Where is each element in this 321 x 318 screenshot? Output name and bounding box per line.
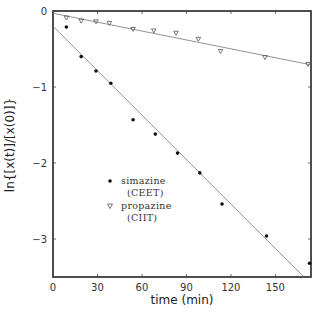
data-point-simazine — [198, 171, 202, 175]
fit-lines — [53, 13, 311, 277]
x-tick-label: 90 — [180, 282, 193, 293]
y-tick-label: −2 — [32, 158, 47, 169]
data-point-simazine — [265, 234, 269, 238]
data-point-simazine — [79, 55, 83, 59]
data-point-propazine — [64, 16, 69, 20]
x-tick-label: 30 — [91, 282, 104, 293]
y-axis-title: ln{[x(t)]/[x(0)]} — [3, 98, 17, 192]
data-point-propazine — [196, 37, 201, 41]
plot-frame — [53, 11, 311, 277]
data-point-simazine — [220, 202, 224, 206]
x-tick-label: 120 — [221, 282, 240, 293]
x-tick-label: 0 — [50, 282, 56, 293]
y-tick-label: 0 — [41, 6, 47, 17]
legend-sublabel-propazine: (CIIT) — [127, 212, 157, 223]
legend-marker-propazine — [108, 204, 113, 209]
chart: 03060901201500−1−2−3 simazine (CEET) pro… — [0, 0, 321, 318]
data-point-propazine — [79, 19, 84, 23]
x-axis-title: time (min) — [151, 293, 214, 307]
x-tick-label: 60 — [136, 282, 149, 293]
data-point-simazine — [94, 69, 98, 73]
data-point-simazine — [65, 25, 69, 29]
plot-border — [53, 11, 311, 277]
data-point-simazine — [131, 118, 135, 122]
data-point-propazine — [174, 31, 179, 35]
legend-sublabel-simazine: (CEET) — [127, 187, 164, 198]
data-point-simazine — [176, 151, 180, 155]
data-point-simazine — [154, 132, 158, 136]
x-tick-label: 150 — [266, 282, 285, 293]
legend-label-propazine: propazine — [121, 200, 172, 211]
axis-ticks: 03060901201500−1−2−3 — [32, 6, 311, 293]
legend: simazine (CEET) propazine (CIIT) — [108, 175, 172, 223]
y-tick-label: −1 — [32, 82, 47, 93]
legend-marker-simazine — [108, 179, 112, 183]
data-point-propazine — [263, 56, 268, 60]
data-point-simazine — [109, 81, 113, 85]
data-point-propazine — [152, 29, 157, 33]
data-point-propazine — [218, 49, 223, 53]
data-points — [64, 16, 311, 265]
fit-line-propazine — [53, 13, 311, 65]
legend-label-simazine: simazine — [121, 175, 166, 186]
data-point-simazine — [308, 262, 312, 266]
y-tick-label: −3 — [32, 234, 47, 245]
